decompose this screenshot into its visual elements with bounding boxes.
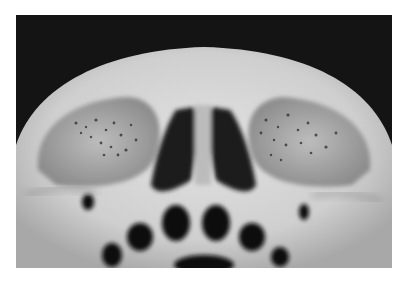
- skull-photograph: [16, 15, 392, 268]
